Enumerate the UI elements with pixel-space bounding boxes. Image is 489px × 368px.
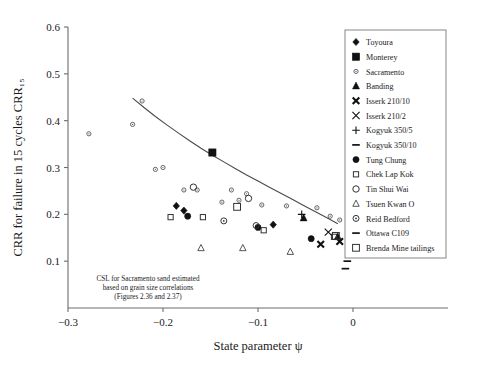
legend-label: Tsuen Kwan O xyxy=(366,200,415,209)
data-point xyxy=(197,189,198,190)
series-reid-bedford xyxy=(221,218,259,229)
x-tick-label: −0.3 xyxy=(58,316,78,328)
y-tick-label: 0.4 xyxy=(46,115,60,127)
series-tsuen-kwan-o xyxy=(198,244,294,254)
data-point xyxy=(316,207,317,208)
series-tin-shui-wai xyxy=(190,184,252,202)
data-point xyxy=(162,167,163,168)
data-point xyxy=(183,189,184,190)
data-point xyxy=(173,202,179,209)
y-axis-title: CRR for failure in 15 cycles CRR₁₅ xyxy=(11,78,25,256)
legend-label: Monterey xyxy=(366,53,398,62)
legend-label: Isserk 210/10 xyxy=(366,97,410,106)
annotation-line-3: (Figures 2.36 and 2.37) xyxy=(114,293,182,301)
data-point xyxy=(246,193,247,194)
data-point xyxy=(190,184,196,190)
legend-label: Chek Lap Kok xyxy=(366,170,415,179)
x-tick-label: 0 xyxy=(350,316,356,328)
data-point xyxy=(231,189,232,190)
legend-marker xyxy=(352,53,359,60)
series-brenda-mine-tailings xyxy=(234,203,340,239)
scatter-plot: 0.10.20.30.40.50.6−0.3−0.2−0.10State par… xyxy=(0,0,489,368)
y-tick-label: 0.1 xyxy=(46,255,60,267)
legend-label: Toyoura xyxy=(366,38,393,47)
legend-label: Banding xyxy=(366,82,393,91)
figure-container: 0.10.20.30.40.50.6−0.3−0.2−0.10State par… xyxy=(0,0,489,368)
data-point xyxy=(255,225,257,227)
legend-label: Ottawa C109 xyxy=(366,229,409,238)
legend-marker xyxy=(353,157,359,163)
data-point xyxy=(155,169,156,170)
legend-label: Kogyuk 350/5 xyxy=(366,126,413,135)
y-tick-label: 0.5 xyxy=(46,68,60,80)
annotation-line-2: based on grain size correlations xyxy=(103,284,194,292)
legend-marker xyxy=(355,218,357,220)
legend-label: Kogyuk 350/10 xyxy=(366,141,417,150)
legend-label: Tin Shui Wai xyxy=(366,185,409,194)
data-point xyxy=(198,244,204,250)
x-axis-title: State parameter ψ xyxy=(213,339,302,353)
data-point xyxy=(245,195,251,201)
x-tick-label: −0.1 xyxy=(248,316,268,328)
data-point xyxy=(234,203,241,210)
csl-curve xyxy=(133,98,338,224)
data-point xyxy=(308,236,314,242)
data-point xyxy=(142,100,143,101)
series-monterey xyxy=(209,149,216,156)
data-point xyxy=(209,149,216,156)
series-isserk-210-2 xyxy=(325,229,332,236)
data-point xyxy=(325,229,332,236)
data-point xyxy=(88,133,89,134)
y-tick-label: 0.6 xyxy=(46,21,60,33)
x-tick-label: −0.2 xyxy=(153,316,173,328)
legend-label: Reid Bedford xyxy=(366,215,410,224)
series-banding xyxy=(300,214,341,240)
data-point xyxy=(270,221,276,228)
data-point xyxy=(181,207,187,214)
data-point xyxy=(221,202,222,203)
y-tick-label: 0.2 xyxy=(46,208,60,220)
data-point xyxy=(261,204,262,205)
legend-item[interactable]: Monterey xyxy=(352,53,398,62)
legend-label: Sacramento xyxy=(366,68,404,77)
legend-label: Tung Chung xyxy=(366,156,406,165)
data-point xyxy=(168,215,173,220)
data-point xyxy=(238,200,239,201)
legend-label: Brenda Mine tailings xyxy=(366,244,434,253)
data-point xyxy=(261,228,266,233)
data-point xyxy=(240,244,246,250)
data-point xyxy=(287,248,293,254)
series-sacramento xyxy=(87,99,342,222)
data-point xyxy=(132,124,133,125)
data-point xyxy=(330,216,331,217)
data-point xyxy=(185,213,191,219)
y-tick-label: 0.3 xyxy=(46,162,60,174)
data-point xyxy=(317,241,324,248)
legend-label: Isserk 210/2 xyxy=(366,112,406,121)
data-point xyxy=(200,215,205,220)
data-point xyxy=(286,205,287,206)
annotation-line-1: CSL for Sacramento sand estimated xyxy=(96,275,200,283)
data-point xyxy=(223,220,225,222)
data-point xyxy=(339,219,340,220)
legend-marker xyxy=(355,71,356,72)
data-point xyxy=(300,214,307,221)
